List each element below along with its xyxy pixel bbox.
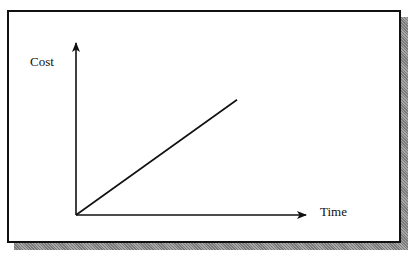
cost-over-time-line (76, 100, 237, 215)
cost-time-diagram: Cost Time (0, 0, 414, 257)
y-axis-label: Cost (30, 54, 54, 69)
x-axis-label: Time (320, 204, 347, 219)
